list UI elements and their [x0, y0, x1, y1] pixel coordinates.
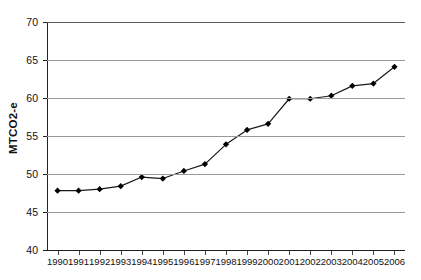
- x-tick-mark-1999: [247, 251, 248, 255]
- x-tick-label-1994: 1994: [131, 257, 152, 267]
- y-tick-label-40: 40: [14, 245, 38, 256]
- x-tick-label-1996: 1996: [173, 257, 194, 267]
- gridline-45: [47, 212, 405, 213]
- data-point-1992: [97, 186, 103, 192]
- x-tick-label-2004: 2004: [342, 257, 363, 267]
- x-tick-mark-2004: [352, 251, 353, 255]
- gridline-65: [47, 60, 405, 61]
- y-tick-mark-65: [43, 60, 47, 61]
- x-tick-label-1998: 1998: [215, 257, 236, 267]
- y-tick-mark-70: [43, 22, 47, 23]
- x-tick-mark-1992: [100, 251, 101, 255]
- y-tick-label-45: 45: [14, 207, 38, 218]
- y-tick-label-50: 50: [14, 169, 38, 180]
- x-tick-mark-1993: [121, 251, 122, 255]
- gridline-70: [47, 22, 405, 23]
- gridline-55: [47, 136, 405, 137]
- plot-area: [47, 22, 405, 250]
- x-tick-mark-1990: [58, 251, 59, 255]
- gridline-50: [47, 174, 405, 175]
- y-tick-label-65: 65: [14, 55, 38, 66]
- x-tick-mark-1994: [142, 251, 143, 255]
- x-tick-label-1995: 1995: [152, 257, 173, 267]
- x-tick-mark-2000: [268, 251, 269, 255]
- x-tick-mark-2005: [373, 251, 374, 255]
- data-point-1993: [118, 183, 124, 189]
- x-tick-label-1992: 1992: [89, 257, 110, 267]
- x-tick-label-1990: 1990: [47, 257, 68, 267]
- y-axis-tick-labels: 70656055504540: [12, 0, 38, 280]
- x-tick-mark-1991: [79, 251, 80, 255]
- x-tick-label-1999: 1999: [236, 257, 257, 267]
- x-tick-label-2005: 2005: [363, 257, 384, 267]
- x-tick-mark-1996: [184, 251, 185, 255]
- x-axis-tick-labels: 1990199119921993199419951996199719981999…: [47, 257, 405, 277]
- data-point-1995: [160, 175, 166, 181]
- x-tick-mark-1997: [205, 251, 206, 255]
- data-point-1990: [54, 188, 60, 194]
- x-tick-mark-2002: [310, 251, 311, 255]
- x-tick-mark-1995: [163, 251, 164, 255]
- data-point-2004: [349, 83, 355, 89]
- y-tick-mark-45: [43, 212, 47, 213]
- x-tick-mark-1998: [226, 251, 227, 255]
- x-tick-label-2006: 2006: [384, 257, 405, 267]
- x-tick-label-1991: 1991: [68, 257, 89, 267]
- x-tick-label-2003: 2003: [321, 257, 342, 267]
- series-line: [58, 67, 395, 191]
- x-tick-label-2002: 2002: [300, 257, 321, 267]
- x-tick-label-2000: 2000: [258, 257, 279, 267]
- x-tick-label-1997: 1997: [194, 257, 215, 267]
- y-tick-mark-60: [43, 98, 47, 99]
- x-tick-label-2001: 2001: [279, 257, 300, 267]
- y-tick-label-60: 60: [14, 93, 38, 104]
- x-tick-mark-2003: [331, 251, 332, 255]
- data-point-1991: [75, 188, 81, 194]
- x-tick-mark-2001: [289, 251, 290, 255]
- gridline-60: [47, 98, 405, 99]
- y-tick-mark-55: [43, 136, 47, 137]
- x-tick-mark-2006: [394, 251, 395, 255]
- line-chart: MTCO2-e 70656055504540 19901991199219931…: [0, 0, 421, 280]
- y-tick-mark-50: [43, 174, 47, 175]
- y-tick-label-70: 70: [14, 17, 38, 28]
- y-tick-label-55: 55: [14, 131, 38, 142]
- x-tick-label-1993: 1993: [110, 257, 131, 267]
